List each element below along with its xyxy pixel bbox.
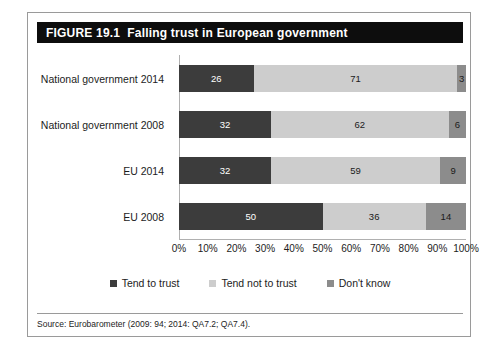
x-axis-tick: 30% xyxy=(255,243,275,254)
bar-segment: 50 xyxy=(179,203,323,230)
bar-value-label: 3 xyxy=(459,73,464,84)
bar-value-label: 14 xyxy=(441,211,452,222)
bar-value-label: 26 xyxy=(211,73,222,84)
chart-legend: Tend to trustTend not to trustDon't know xyxy=(37,277,463,289)
bar-segment: 32 xyxy=(179,157,271,184)
bar-segment: 26 xyxy=(179,65,254,92)
x-axis-tick: 50% xyxy=(312,243,332,254)
bar-segment: 6 xyxy=(449,111,466,138)
bar-value-label: 50 xyxy=(245,211,256,222)
x-axis-tick: 0% xyxy=(172,243,186,254)
source-divider xyxy=(37,313,463,314)
bar-value-label: 71 xyxy=(350,73,361,84)
x-axis-line xyxy=(179,239,466,240)
x-axis-tick: 60% xyxy=(341,243,361,254)
bars-area: 267133262632599503614 xyxy=(179,55,466,240)
bar-row: 32599 xyxy=(179,157,466,184)
x-axis-tick: 90% xyxy=(427,243,447,254)
bar-row: 26713 xyxy=(179,65,466,92)
x-axis-tick: 10% xyxy=(198,243,218,254)
x-axis-tick: 40% xyxy=(284,243,304,254)
legend-label: Tend to trust xyxy=(122,277,180,289)
category-label: EU 2014 xyxy=(123,165,164,177)
bar-segment: 9 xyxy=(440,157,466,184)
bar-segment: 62 xyxy=(271,111,449,138)
legend-item[interactable]: Tend not to trust xyxy=(209,277,296,289)
bar-segment: 14 xyxy=(426,203,466,230)
figure-number: FIGURE 19.1 xyxy=(46,26,120,40)
legend-swatch-icon xyxy=(110,280,117,287)
page-title: FIGURE 19.1Falling trust in European gov… xyxy=(37,26,348,40)
category-label: EU 2008 xyxy=(123,211,164,223)
bar-value-label: 9 xyxy=(450,165,455,176)
figure-frame: FIGURE 19.1Falling trust in European gov… xyxy=(27,12,471,337)
figure-title-banner: FIGURE 19.1Falling trust in European gov… xyxy=(37,22,463,43)
x-axis-tick: 80% xyxy=(399,243,419,254)
source-note: Source: Eurobarometer (2009: 94; 2014: Q… xyxy=(37,319,250,329)
bar-value-label: 62 xyxy=(355,119,366,130)
bar-segment: 71 xyxy=(254,65,458,92)
bar-segment: 36 xyxy=(323,203,426,230)
category-axis-labels: National government 2014National governm… xyxy=(37,55,170,240)
x-axis-tick: 70% xyxy=(370,243,390,254)
legend-item[interactable]: Don't know xyxy=(327,277,391,289)
bar-segment: 3 xyxy=(457,65,466,92)
bar-value-label: 36 xyxy=(369,211,380,222)
bar-segment: 59 xyxy=(271,157,440,184)
category-label: National government 2014 xyxy=(41,73,164,85)
bar-row: 503614 xyxy=(179,203,466,230)
bar-value-label: 32 xyxy=(220,165,231,176)
x-axis-tick: 100% xyxy=(453,243,479,254)
x-axis-tick-labels: 0%10%20%30%40%50%60%70%80%90%100% xyxy=(179,243,466,259)
legend-label: Don't know xyxy=(339,277,391,289)
legend-label: Tend not to trust xyxy=(221,277,296,289)
category-label: National government 2008 xyxy=(41,119,164,131)
bar-row: 32626 xyxy=(179,111,466,138)
bar-value-label: 32 xyxy=(220,119,231,130)
bar-value-label: 6 xyxy=(455,119,460,130)
bar-value-label: 59 xyxy=(350,165,361,176)
chart-plot-area: National government 2014National governm… xyxy=(37,55,463,307)
bar-segment: 32 xyxy=(179,111,271,138)
legend-swatch-icon xyxy=(209,280,216,287)
figure-title-text: Falling trust in European government xyxy=(127,26,348,40)
legend-item[interactable]: Tend to trust xyxy=(110,277,180,289)
x-axis-tick: 20% xyxy=(226,243,246,254)
legend-swatch-icon xyxy=(327,280,334,287)
